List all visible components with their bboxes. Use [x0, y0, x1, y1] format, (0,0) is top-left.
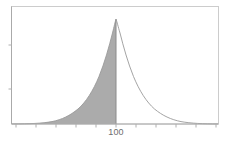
chart-figure: 100 — [0, 0, 231, 141]
x-axis-tick-label-100: 100 — [101, 126, 131, 139]
normal-curve-plot — [0, 0, 231, 141]
shaded-area-left-tail — [12, 19, 116, 124]
